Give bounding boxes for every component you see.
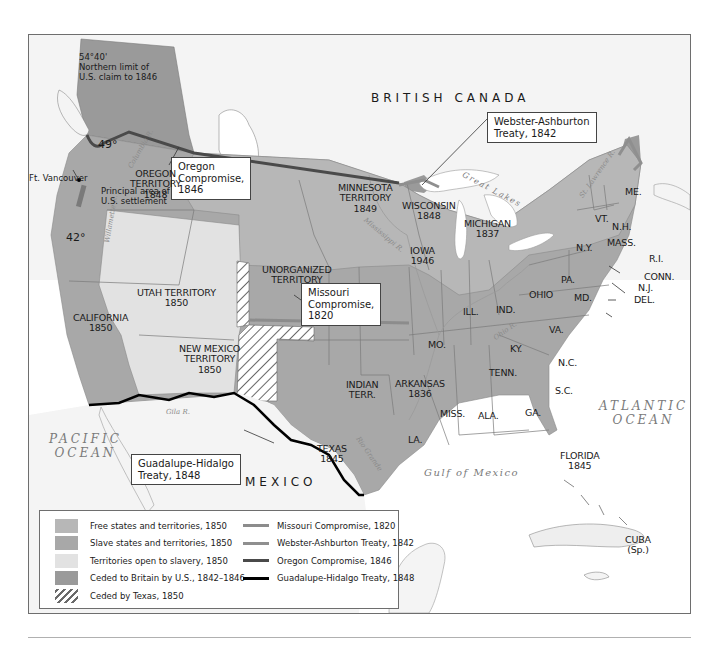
region-label-unorganized-territory: UNORGANIZEDTERRITORY: [262, 265, 332, 286]
region-label-maryland: MD.: [574, 293, 592, 303]
bottom-divider: [28, 637, 691, 638]
region-label-new-mexico-territory: NEW MEXICOTERRITORY1850: [179, 344, 240, 375]
legend-areas: Free states and territories, 1850 Slave …: [55, 517, 245, 605]
region-label-iowa: IOWA1946: [410, 246, 435, 267]
legend-line-swatch: [243, 524, 269, 527]
region-label-indian-territory: INDIANTERR.: [346, 380, 378, 401]
region-label-louisiana: LA.: [408, 435, 422, 445]
region-label-oregon-territory: OREGONTERRITORY1848: [130, 169, 181, 200]
jamaica: [584, 572, 609, 580]
region-label-vermont: VT.: [595, 214, 609, 224]
map-legend: Free states and territories, 1850 Slave …: [39, 510, 399, 609]
region-label-north-carolina: N.C.: [558, 358, 577, 368]
legend-item-guadalupe: Guadalupe-Hidalgo Treaty, 1848: [243, 570, 414, 588]
callout-line: Compromise,: [308, 299, 374, 311]
callout-line: Guadalupe-Hidalgo: [138, 458, 234, 470]
region-label-indiana: IND.: [496, 305, 515, 315]
legend-line-swatch: [243, 559, 269, 562]
region-label-new-hampshire: N.H.: [612, 222, 631, 232]
region-label-pennsylvania: PA.: [561, 275, 575, 285]
map-frame: BRITISH CANADA MEXICO PACIFIC OCEAN ATLA…: [28, 34, 691, 614]
legend-item-open: Territories open to slavery, 1850: [55, 552, 245, 570]
legend-swatch: [55, 536, 78, 550]
ceded-by-texas-area: [237, 261, 249, 327]
region-label-california: CALIFORNIA1850: [73, 313, 128, 334]
legend-item-free: Free states and territories, 1850: [55, 517, 245, 535]
country-label-british-canada: BRITISH CANADA: [371, 91, 529, 105]
region-label-kentucky: KY.: [510, 344, 522, 354]
callout-line: Webster-Ashburton: [494, 116, 590, 128]
country-label-mexico: MEXICO: [245, 475, 317, 489]
bahamas: [564, 480, 627, 525]
callout-line: Compromise,: [178, 173, 244, 185]
region-label-massachusetts: MASS.: [607, 238, 636, 248]
northern-limit-note: 54°40' Northern limit of U.S. claim to 1…: [79, 53, 157, 82]
region-label-illinois: ILL.: [463, 307, 479, 317]
region-label-utah-territory: UTAH TERRITORY1850: [137, 288, 216, 309]
legend-item-ceded-texas: Ceded by Texas, 1850: [55, 587, 245, 605]
region-label-wisconsin: WISCONSIN1848: [402, 201, 456, 222]
region-label-connecticut: CONN.: [644, 272, 674, 282]
callout-line: Missouri: [308, 287, 374, 299]
callout-line: Treaty, 1848: [138, 470, 234, 482]
region-label-cuba: CUBA(Sp.): [625, 535, 651, 556]
region-label-missouri: MO.: [428, 340, 446, 350]
legend-swatch: [55, 519, 78, 533]
region-label-florida: FLORIDA1845: [560, 451, 600, 472]
region-label-texas: TEXAS1845: [317, 444, 347, 465]
legend-item-ceded-britain: Ceded to Britain by U.S., 1842–1846: [55, 570, 245, 588]
callout-line: 1820: [308, 310, 374, 322]
region-label-minnesota-territory: MINNESOTATERRITORY1849: [338, 183, 393, 214]
callout-line: Oregon: [178, 161, 244, 173]
callout-webster-ashburton: Webster-Ashburton Treaty, 1842: [487, 112, 597, 143]
region-label-alabama: ALA.: [478, 411, 499, 421]
latitude-42-label: 42°: [66, 231, 86, 244]
legend-line-swatch: [243, 577, 269, 580]
ocean-line: ATLANTIC: [599, 400, 688, 414]
ocean-line: OCEAN: [599, 414, 688, 428]
note-line: U.S. claim to 1846: [79, 73, 157, 83]
region-label-new-jersey: N.J.: [638, 283, 653, 293]
callout-line: Treaty, 1842: [494, 128, 590, 140]
region-label-south-carolina: S.C.: [555, 386, 573, 396]
ocean-line: OCEAN: [49, 447, 122, 461]
region-label-maine: ME.: [625, 187, 642, 197]
region-label-mississippi: MISS.: [440, 409, 465, 419]
ocean-label-atlantic: ATLANTIC OCEAN: [599, 400, 688, 428]
river-label-gila: Gila R.: [166, 408, 190, 416]
legend-lines: Missouri Compromise, 1820 Webster-Ashbur…: [243, 517, 414, 587]
ft-vancouver-label: Ft. Vancouver: [29, 174, 87, 184]
ocean-line: PACIFIC: [49, 433, 122, 447]
legend-item-webster: Webster-Ashburton Treaty, 1842: [243, 535, 414, 553]
gulf-of-mexico-label: Gulf of Mexico: [424, 467, 519, 478]
region-label-ohio: OHIO: [529, 290, 553, 300]
legend-swatch: [55, 571, 78, 585]
latitude-49-label: 49°: [98, 138, 118, 151]
legend-hatch-swatch: [55, 589, 78, 603]
callout-oregon-compromise: Oregon Compromise, 1846: [171, 157, 251, 200]
callout-line: 1846: [178, 184, 244, 196]
ocean-label-pacific: PACIFIC OCEAN: [49, 433, 122, 461]
legend-swatch: [55, 554, 78, 568]
region-label-delaware: DEL.: [634, 295, 655, 305]
region-label-rhode-island: R.I.: [649, 254, 663, 264]
region-label-virginia: VA.: [549, 325, 564, 335]
region-label-new-york: N.Y.: [576, 243, 592, 253]
legend-item-missouri: Missouri Compromise, 1820: [243, 517, 414, 535]
legend-item-oregon: Oregon Compromise, 1846: [243, 552, 414, 570]
legend-item-slave: Slave states and territories, 1850: [55, 535, 245, 553]
callout-guadalupe-hidalgo: Guadalupe-Hidalgo Treaty, 1848: [131, 454, 241, 485]
region-label-arkansas: ARKANSAS1836: [395, 379, 445, 400]
region-label-georgia: GA.: [525, 408, 541, 418]
legend-line-swatch: [243, 542, 269, 545]
region-label-michigan: MICHIGAN1837: [464, 219, 511, 240]
region-label-tennessee: TENN.: [489, 368, 517, 378]
callout-missouri-compromise: Missouri Compromise, 1820: [301, 283, 381, 326]
